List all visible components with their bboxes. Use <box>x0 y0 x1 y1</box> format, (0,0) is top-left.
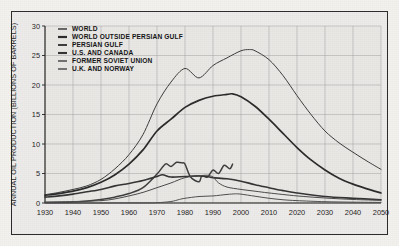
x-tick-label: 2030 <box>317 208 333 217</box>
x-tick-label: 2050 <box>373 208 389 217</box>
x-tick-label: 1960 <box>121 208 137 217</box>
x-tick-label: 1970 <box>149 208 165 217</box>
y-axis-title: ANNUAL OIL PRODUCTION (BILLIONS OF BARRE… <box>9 23 18 207</box>
y-tick-label: 0 <box>36 199 40 208</box>
x-tick-label: 1950 <box>93 208 109 217</box>
x-tick-label: 1940 <box>65 208 81 217</box>
legend-label-5: U.K. AND NORWAY <box>72 65 135 72</box>
chart-plot-wrapper: 1930194019501960197019801990200020102020… <box>0 0 399 246</box>
oil-production-line-chart: 1930194019501960197019801990200020102020… <box>0 0 399 246</box>
y-tick-label: 20 <box>32 81 40 90</box>
figure-container: 1930194019501960197019801990200020102020… <box>0 0 399 246</box>
x-tick-label: 1980 <box>177 208 193 217</box>
x-tick-label: 1930 <box>37 208 53 217</box>
legend-label-2: PERSIAN GULF <box>72 41 123 48</box>
y-tick-label: 25 <box>32 51 40 60</box>
x-tick-label: 2000 <box>233 208 249 217</box>
legend-label-0: WORLD <box>72 25 98 32</box>
y-tick-label: 10 <box>32 140 40 149</box>
x-tick-label: 2020 <box>289 208 305 217</box>
legend-label-4: FORMER SOVIET UNION <box>72 57 153 64</box>
x-tick-label: 2040 <box>345 208 361 217</box>
x-tick-label: 1990 <box>205 208 221 217</box>
y-tick-label: 5 <box>36 169 40 178</box>
y-tick-label: 15 <box>32 110 40 119</box>
legend-label-1: WORLD OUTSIDE PERSIAN GULF <box>72 33 183 40</box>
x-tick-label: 2010 <box>261 208 277 217</box>
legend-label-3: U.S. AND CANADA <box>72 49 133 56</box>
y-tick-label: 30 <box>32 22 40 31</box>
y-axis-title-text: ANNUAL OIL PRODUCTION (BILLIONS OF BARRE… <box>9 23 18 207</box>
